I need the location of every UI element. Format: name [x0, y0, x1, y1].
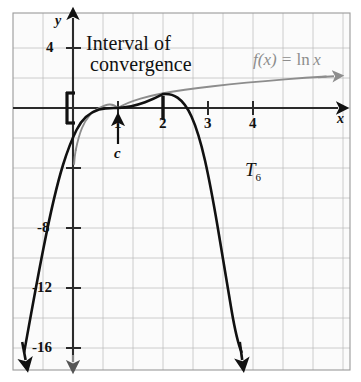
y-tick-label-minus-16: -16: [32, 340, 52, 356]
taylor-polynomial-figure: Interval of convergence f(x) = ln x T6 c…: [0, 0, 361, 382]
x-tick-label-2: 2: [159, 116, 167, 132]
y-tick-label-minus-12: -12: [32, 280, 52, 296]
interval-label-line2: convergence: [90, 54, 192, 75]
function-label: f(x) = ln x: [253, 51, 321, 69]
x-axis-label: x: [337, 112, 344, 127]
ln-x-curve-arrow: [318, 76, 334, 77]
t6-label-base: T: [245, 159, 256, 180]
center-label: c: [114, 146, 121, 162]
t6-label-subscript: 6: [256, 171, 262, 183]
y-tick-label-4: 4: [46, 40, 54, 56]
x-tick-label-1: 1: [114, 116, 122, 132]
x-tick-label-3: 3: [204, 116, 212, 132]
function-label-lhs: f(x) =: [253, 50, 297, 69]
interval-label-line1: Interval of: [86, 32, 171, 54]
function-label-ln: ln: [297, 50, 310, 69]
function-label-var: x: [313, 50, 321, 69]
interval-of-convergence-label: Interval of convergence: [86, 33, 192, 75]
y-axis-label: y: [55, 14, 61, 29]
t6-curve-label: T6: [245, 160, 261, 183]
x-tick-label-4: 4: [249, 116, 257, 132]
y-tick-label-minus-8: -8: [37, 220, 50, 236]
